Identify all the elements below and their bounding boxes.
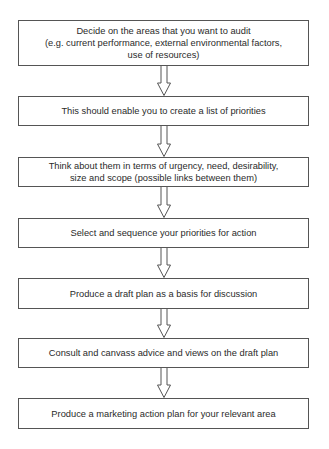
flow-step-6: Consult and canvass advice and views on … bbox=[18, 338, 309, 368]
step-1-line-3: use of resources) bbox=[128, 49, 200, 61]
step-5-line-1: Produce a draft plan as a basis for disc… bbox=[70, 288, 258, 300]
step-1-line-1: Decide on the areas that you want to aud… bbox=[76, 25, 250, 37]
flow-step-2: This should enable you to create a list … bbox=[18, 96, 309, 126]
step-7-line-1: Produce a marketing action plan for your… bbox=[51, 408, 275, 420]
step-3-line-1: Think about them in terms of urgency, ne… bbox=[49, 160, 279, 172]
down-arrow-icon bbox=[154, 309, 174, 338]
step-2-line-1: This should enable you to create a list … bbox=[61, 105, 265, 117]
down-arrow-icon bbox=[154, 368, 174, 398]
down-arrow-icon bbox=[154, 126, 174, 157]
down-arrow-icon bbox=[154, 66, 174, 96]
step-4-line-1: Select and sequence your priorities for … bbox=[70, 227, 256, 239]
down-arrow-icon bbox=[154, 187, 174, 218]
flow-step-3: Think about them in terms of urgency, ne… bbox=[18, 157, 309, 187]
step-3-line-2: size and scope (possible links between t… bbox=[70, 172, 257, 184]
flow-step-7: Produce a marketing action plan for your… bbox=[18, 398, 309, 429]
down-arrow-icon bbox=[154, 248, 174, 278]
flow-step-1: Decide on the areas that you want to aud… bbox=[18, 20, 309, 66]
flow-step-5: Produce a draft plan as a basis for disc… bbox=[18, 278, 309, 309]
step-1-line-2: (e.g. current performance, external envi… bbox=[45, 37, 282, 49]
step-6-line-1: Consult and canvass advice and views on … bbox=[49, 347, 278, 359]
flow-step-4: Select and sequence your priorities for … bbox=[18, 218, 309, 248]
